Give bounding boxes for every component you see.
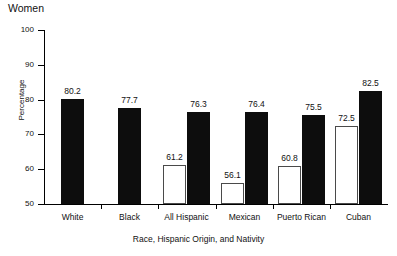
y-tick-100 <box>38 30 44 31</box>
y-tick-label-50: 50 <box>4 200 34 208</box>
y-tick-70 <box>38 134 44 135</box>
x-tick-mexican <box>216 205 217 209</box>
x-category-label-puerto-rican: Puerto Rican <box>273 212 330 222</box>
y-tick-label-80: 80 <box>4 96 34 104</box>
bar-chart: Women Percentage 1009080706050 80.277.76… <box>0 0 397 256</box>
bar-black-filled-value-label: 77.7 <box>110 96 149 105</box>
bar-mexican-filled <box>245 112 268 204</box>
x-category-label-black: Black <box>101 212 158 222</box>
y-tick-60 <box>38 169 44 170</box>
bar-puerto-rican-filled <box>302 115 325 204</box>
y-tick-label-100: 100 <box>4 26 34 34</box>
y-axis-line <box>44 30 45 205</box>
x-axis-title: Race, Hispanic Origin, and Nativity <box>0 234 397 244</box>
bar-black-filled <box>118 108 141 204</box>
bar-cuban-filled-value-label: 82.5 <box>351 79 390 88</box>
x-category-label-cuban: Cuban <box>330 212 387 222</box>
y-tick-label-70: 70 <box>4 130 34 138</box>
bar-white-filled-value-label: 80.2 <box>53 87 92 96</box>
bar-cuban-filled <box>359 91 382 204</box>
x-tick-all-hispanic <box>158 205 159 209</box>
x-category-label-mexican: Mexican <box>216 212 273 222</box>
y-tick-50 <box>38 204 44 205</box>
x-category-label-white: White <box>44 212 101 222</box>
x-category-label-all-hispanic: All Hispanic <box>158 212 215 222</box>
x-tick-puerto-rican <box>273 205 274 209</box>
chart-title: Women <box>8 2 44 15</box>
bar-white-filled <box>61 99 84 204</box>
bar-all-hispanic-open <box>163 165 186 204</box>
x-tick-cuban <box>330 205 331 209</box>
y-tick-label-90: 90 <box>4 61 34 69</box>
y-tick-90 <box>38 65 44 66</box>
bar-mexican-open <box>221 183 244 204</box>
y-tick-label-60: 60 <box>4 165 34 173</box>
y-tick-80 <box>38 100 44 101</box>
bar-all-hispanic-filled <box>187 112 210 204</box>
bar-mexican-filled-value-label: 76.4 <box>237 100 276 109</box>
x-tick-black <box>101 205 102 209</box>
bar-all-hispanic-filled-value-label: 76.3 <box>179 100 218 109</box>
bar-puerto-rican-open <box>278 166 301 204</box>
bar-puerto-rican-filled-value-label: 75.5 <box>294 103 333 112</box>
bar-cuban-open <box>335 126 358 204</box>
